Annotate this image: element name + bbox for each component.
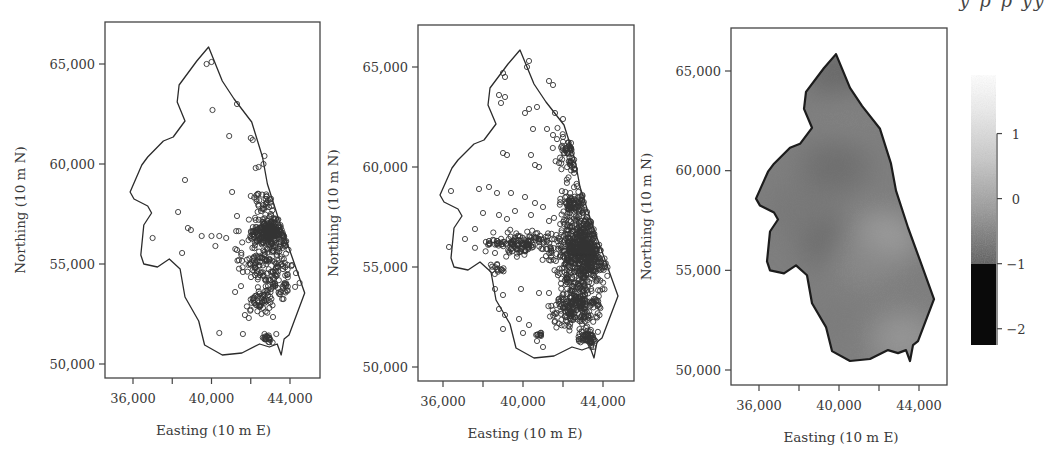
x-tick-label: 44,000 (267, 391, 313, 406)
y-tick-label: 50,000 (676, 363, 722, 378)
y-axis-title: Northing (10 m N) (638, 153, 654, 280)
y-tick-label: 65,000 (363, 60, 409, 75)
x-tick-label: 44,000 (580, 394, 626, 409)
y-tick-label: 55,000 (676, 263, 722, 278)
y-tick-label: 60,000 (676, 163, 722, 178)
x-tick-label: 44,000 (896, 398, 942, 413)
y-tick-label: 55,000 (50, 257, 96, 272)
colorbar-tick-label: −2 (1006, 322, 1025, 337)
panel-dense-samples: 50,00055,00060,00065,00036,00040,00044,0… (325, 25, 634, 441)
y-tick-label: 65,000 (50, 57, 96, 72)
y-tick-label: 65,000 (676, 64, 722, 79)
plot-frame (418, 25, 634, 381)
colorbar-low-block (971, 264, 996, 345)
panel-interpolated-surface: 50,00055,00060,00065,00036,00040,00044,0… (638, 28, 947, 445)
x-tick-label: 36,000 (420, 394, 466, 409)
y-tick-label: 50,000 (50, 357, 96, 372)
y-tick-label: 60,000 (363, 160, 409, 175)
x-axis-title: Easting (10 m E) (156, 422, 271, 438)
x-tick-label: 40,000 (500, 394, 546, 409)
colorbar-tick-label: 1 (1012, 127, 1020, 142)
colorbar-gradient (971, 75, 996, 264)
y-tick-label: 60,000 (50, 157, 96, 172)
x-tick-label: 36,000 (110, 391, 156, 406)
colorbar-tick-label: 0 (1012, 192, 1020, 207)
panel-sparse-samples: 50,00055,00060,00065,00036,00040,00044,0… (12, 22, 320, 438)
figure-canvas: 50,00055,00060,00065,00036,00040,00044,0… (0, 0, 1054, 472)
x-axis-title: Easting (10 m E) (467, 425, 582, 441)
y-tick-label: 55,000 (363, 260, 409, 275)
y-axis-title: Northing (10 m N) (325, 149, 341, 276)
x-tick-label: 40,000 (816, 398, 862, 413)
x-axis-title: Easting (10 m E) (783, 429, 898, 445)
x-tick-label: 36,000 (736, 398, 782, 413)
colorbar-tick-label: −1 (1006, 257, 1025, 272)
colorbar: 10−1−2 (971, 75, 1026, 345)
x-tick-label: 40,000 (189, 391, 235, 406)
y-tick-label: 50,000 (363, 360, 409, 375)
y-axis-title: Northing (10 m N) (12, 146, 28, 273)
